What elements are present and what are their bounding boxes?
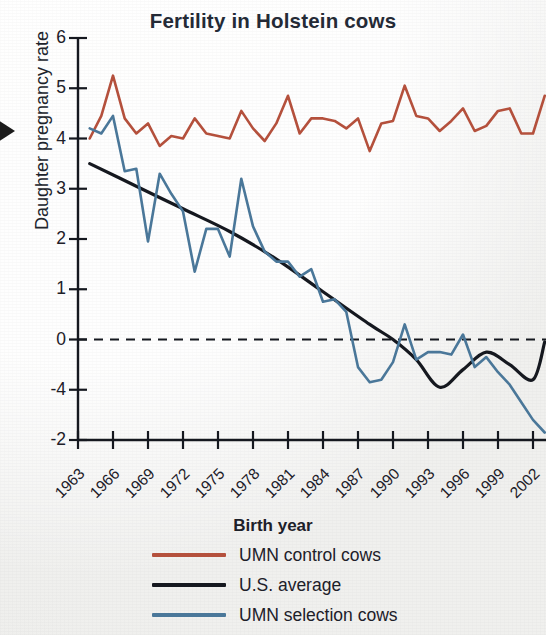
series-line-umn-control-cows <box>90 76 545 151</box>
legend-item: UMN control cows <box>0 540 546 570</box>
legend-item: UMN selection cows <box>0 600 546 630</box>
legend-label-umn-selection-cows: UMN selection cows <box>239 605 398 626</box>
legend-label-umn-control-cows: UMN control cows <box>239 545 381 566</box>
legend-label-us-average: U.S. average <box>239 575 341 596</box>
chart-figure: Fertility in Holstein cows Daughter preg… <box>0 0 546 635</box>
legend-swatch-umn-selection-cows <box>152 613 226 617</box>
legend-swatch-us-average <box>152 583 226 587</box>
legend-item: U.S. average <box>0 570 546 600</box>
legend-swatch-umn-control-cows <box>152 553 226 557</box>
chart-legend: UMN control cows U.S. average UMN select… <box>0 540 546 630</box>
series-line-us-average <box>90 164 545 388</box>
series-line-umn-selection-cows <box>90 116 545 433</box>
